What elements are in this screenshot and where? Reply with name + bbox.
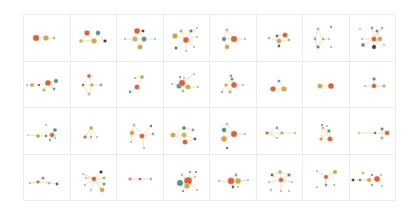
graph-node <box>270 86 276 92</box>
graph-node <box>43 35 49 41</box>
graph-node <box>132 36 138 42</box>
graph-node <box>288 190 290 192</box>
network-graph-icon <box>117 108 163 154</box>
network-thumbnail[interactable] <box>210 108 257 155</box>
graph-node <box>137 44 142 49</box>
network-graph-icon <box>350 108 396 154</box>
graph-node <box>361 43 365 47</box>
graph-node <box>364 85 366 87</box>
network-thumbnail[interactable] <box>303 108 350 155</box>
graph-node <box>193 46 195 48</box>
network-thumbnail[interactable] <box>71 62 118 109</box>
graph-node <box>29 181 31 183</box>
graph-node <box>231 82 237 88</box>
graph-node <box>53 37 55 39</box>
network-graph-icon <box>350 15 396 61</box>
graph-node <box>230 74 233 77</box>
network-thumbnail[interactable] <box>117 15 164 62</box>
graph-node <box>181 132 186 137</box>
network-thumbnail[interactable] <box>257 15 304 62</box>
graph-node <box>170 132 175 137</box>
graph-node <box>361 171 364 174</box>
network-thumbnail[interactable] <box>164 108 211 155</box>
network-thumbnail[interactable] <box>71 108 118 155</box>
graph-node <box>45 124 47 126</box>
graph-node <box>130 131 135 136</box>
network-thumbnail[interactable] <box>210 62 257 109</box>
network-graph-icon <box>257 108 303 154</box>
network-thumbnail[interactable] <box>24 155 71 202</box>
graph-node <box>316 27 319 30</box>
network-thumbnail[interactable] <box>24 108 71 155</box>
graph-node <box>184 183 190 189</box>
graph-node <box>316 170 318 172</box>
graph-node <box>130 141 132 143</box>
graph-node <box>54 137 56 139</box>
network-graph-icon <box>350 62 396 108</box>
graph-node <box>91 176 96 181</box>
network-graph-icon <box>303 15 349 61</box>
graph-node <box>41 176 44 179</box>
network-graph-icon <box>164 62 210 108</box>
network-thumbnail[interactable] <box>117 62 164 109</box>
graph-node <box>53 128 57 132</box>
graph-node <box>182 139 187 144</box>
network-thumbnail[interactable] <box>164 155 211 202</box>
network-thumbnail[interactable] <box>117 155 164 202</box>
network-graph-icon <box>210 15 256 61</box>
graph-node <box>371 45 375 49</box>
network-thumbnail[interactable] <box>303 15 350 62</box>
graph-node <box>193 73 195 75</box>
network-thumbnail[interactable] <box>71 15 118 62</box>
network-thumbnail[interactable] <box>257 155 304 202</box>
graph-node <box>277 79 280 82</box>
graph-node <box>244 133 246 135</box>
graph-node <box>357 132 359 134</box>
graph-node <box>87 92 90 95</box>
graph-node <box>270 173 273 176</box>
network-thumbnail[interactable] <box>303 62 350 109</box>
graph-node <box>30 83 34 87</box>
network-graph-icon <box>71 108 117 154</box>
network-graph-icon <box>117 155 163 201</box>
network-thumbnail[interactable] <box>303 155 350 202</box>
graph-node <box>328 38 330 40</box>
graph-node <box>129 177 132 180</box>
graph-node <box>134 84 139 89</box>
graph-node <box>276 39 281 44</box>
network-thumbnail[interactable] <box>164 62 211 109</box>
network-thumbnail[interactable] <box>24 62 71 109</box>
graph-node <box>231 131 237 137</box>
graph-node <box>232 185 235 188</box>
network-thumbnail[interactable] <box>117 108 164 155</box>
network-thumbnail[interactable] <box>210 155 257 202</box>
network-thumbnail[interactable] <box>350 155 397 202</box>
network-thumbnail[interactable] <box>71 155 118 202</box>
graph-node <box>99 83 102 86</box>
graph-node <box>294 132 296 134</box>
graph-node <box>197 86 199 88</box>
graph-node <box>278 177 283 182</box>
network-thumbnail[interactable] <box>350 62 397 109</box>
graph-node <box>56 182 59 185</box>
graph-node <box>278 170 282 174</box>
graph-node <box>183 77 185 79</box>
network-thumbnail[interactable] <box>257 108 304 155</box>
graph-node <box>372 77 376 81</box>
network-thumbnail[interactable] <box>350 108 397 155</box>
network-thumbnail[interactable] <box>210 15 257 62</box>
network-thumbnail[interactable] <box>257 62 304 109</box>
graph-node <box>53 87 56 90</box>
network-thumbnail[interactable] <box>24 15 71 62</box>
network-thumbnail[interactable] <box>350 15 397 62</box>
graph-node <box>321 124 323 126</box>
graph-node <box>196 36 198 38</box>
network-graph-icon <box>24 155 70 201</box>
graph-node <box>316 45 320 49</box>
graph-node <box>321 37 324 40</box>
graph-node <box>124 38 126 40</box>
graph-node <box>326 125 328 127</box>
network-thumbnail[interactable] <box>164 15 211 62</box>
network-graph-icon <box>24 62 70 108</box>
graph-node <box>221 90 223 92</box>
